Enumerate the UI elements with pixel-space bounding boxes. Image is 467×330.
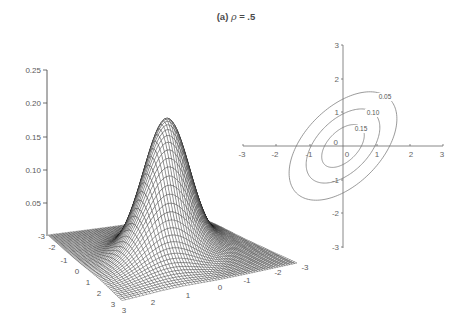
z-axis-ticks [43,70,47,203]
surface-mesh [48,118,297,300]
z-tick-label: 0.25 [25,66,41,75]
figure: (a) ρ = .5 0.25 0.20 0.15 0.10 0.05 -3 -… [0,0,467,330]
x-tick-label: 1 [86,278,91,287]
y-tick-label: -1 [243,276,251,285]
contour-y-tick-label: -3 [332,243,340,252]
contour-x-tick-label: 0 [345,150,350,159]
title-value: = .5 [239,11,256,22]
y-tick-label: 0 [218,283,223,292]
contour-y-tick-label: -2 [332,209,340,218]
y-tick-label: -3 [301,263,309,272]
contour-plot: -3 -2 -1 0 1 2 3 3 2 1 0 -1 -2 -3 0.05 0… [238,41,444,252]
x-tick-label: 0 [75,267,80,276]
x-tick-label: -1 [60,256,68,265]
contour-level-label: 0.10 [367,109,380,116]
rho-symbol: ρ [230,11,237,22]
y-tick-label: 2 [151,298,156,307]
y-tick-label: 3 [122,306,127,315]
y-tick-label: 1 [186,291,191,300]
x-tick-label: -3 [38,232,46,241]
contour-x-tick-label: -1 [305,150,313,159]
contour-y-tick-label: 0 [334,138,339,147]
contour-x-tick-label: 3 [440,150,445,159]
contour-y-tick-label: 2 [335,75,340,84]
contour-level-label: 0.15 [355,125,368,132]
contour-y-tick-label: 1 [335,108,340,117]
z-tick-label: 0.15 [25,133,41,142]
figure-title: (a) ρ = .5 [217,11,256,22]
y-tick-label: -2 [274,268,282,277]
contour-x-tick-label: 2 [409,150,414,159]
x-tick-label: 3 [111,300,116,309]
x-tick-label: 2 [97,289,102,298]
z-tick-label: 0.10 [25,166,41,175]
x-tick-label: -2 [48,243,56,252]
contour-y-tick-label: 3 [335,41,340,50]
title-label: (a) [217,11,229,22]
z-tick-label: 0.05 [25,199,41,208]
contour-x-tick-label: -3 [238,150,246,159]
contour-x-tick-label: -2 [271,150,279,159]
contour-x-tick-label: 1 [375,150,380,159]
contour-level-label: 0.05 [379,93,392,100]
contour-y-tick-label: -1 [332,176,340,185]
surface-plot: 0.25 0.20 0.15 0.10 0.05 -3 -2 -1 0 1 2 … [25,66,309,315]
z-tick-label: 0.20 [25,99,41,108]
